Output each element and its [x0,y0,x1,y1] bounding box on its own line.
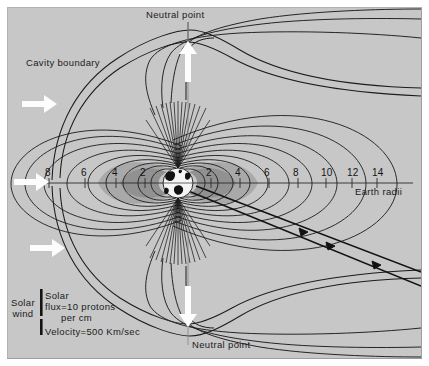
polar-fan-south [146,198,210,265]
trajectory-line-1 [186,190,421,286]
label-neutral-point-bottom: Neutral point [192,339,250,350]
solar-wind-arrow-bottom [30,239,65,257]
axis-tick-10: 10 [321,167,333,178]
axis-tick-2: 2 [140,167,146,178]
solar-wind-line-1: Solar [11,297,35,308]
neutral-point-arrow-south [179,286,197,327]
legend-flux-line-3: per cm [45,312,115,323]
axis-tick-4: 4 [235,167,241,178]
solar-wind-arrow-mid [14,173,49,191]
axis-tick-14: 14 [372,167,384,178]
trajectory-arrow-1 [326,242,335,250]
figure-root: Neutral point Neutral point Cavity bound… [0,0,429,366]
axis-tick-12: 12 [347,167,359,178]
axis-tick-2: 2 [206,167,212,178]
solar-wind-arrow-top [22,95,57,113]
legend-flux: Solar flux=10 protons per cm [45,290,115,324]
legend-flux-line-1: Solar [45,290,69,301]
axis-tick-6: 6 [81,167,87,178]
axis-tick-8: 8 [293,167,299,178]
earth-globe [163,168,193,198]
polar-fan-north [146,101,210,168]
label-solar-wind: Solar wind [11,297,35,319]
open-line-n1 [171,9,421,103]
axis-tick-6: 6 [264,167,270,178]
neutral-point-arrow-north [179,41,197,82]
label-cavity-boundary: Cavity boundary [26,57,100,68]
axis-tick-8: 8 [45,167,51,178]
label-earth-radii-axis: Earth radii [355,186,402,197]
label-neutral-point-top: Neutral point [146,9,204,20]
trajectory-arrow-3 [299,228,308,236]
legend-flux-line-2: flux=10 protons [45,301,115,312]
legend-bracket [40,289,43,335]
solar-wind-line-2: wind [12,308,33,319]
axis-tick-4: 4 [112,167,118,178]
trajectory-arrow-2 [372,261,381,269]
cavity-boundary-upper-outer [60,42,421,178]
legend-velocity: Velocity=500 Km/sec [45,326,140,337]
